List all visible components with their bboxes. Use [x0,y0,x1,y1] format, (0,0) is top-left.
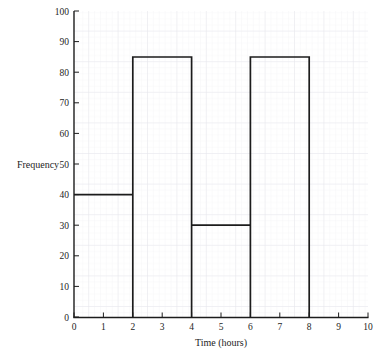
y-tick-label: 80 [60,68,70,78]
histogram-chart: 100 90 80 70 60 50 40 30 20 10 0 0 1 2 3… [0,0,378,351]
x-tick-label: 7 [277,322,282,332]
y-tick-label: 0 [64,313,69,323]
y-tick-label: 10 [60,282,70,292]
x-tick-label: 4 [189,322,194,332]
x-tick-label: 8 [307,322,312,332]
x-tick-label: 3 [160,322,165,332]
y-tick-label: 100 [55,7,70,17]
x-axis-title: Time (hours) [195,337,247,349]
plot-grid [74,11,368,317]
chart-canvas: 100 90 80 70 60 50 40 30 20 10 0 0 1 2 3… [0,0,378,351]
y-tick-label: 90 [60,37,70,47]
x-tick-labels: 0 1 2 3 4 5 6 7 8 9 10 [72,322,373,332]
x-tick-label: 6 [248,322,253,332]
y-axis-title: Frequency [17,159,59,170]
x-tick-label: 1 [101,322,106,332]
x-tick-label: 0 [72,322,77,332]
x-tick-label: 9 [336,322,341,332]
y-tick-label: 40 [60,190,70,200]
y-tick-label: 20 [60,251,70,261]
x-tick-label: 2 [130,322,135,332]
y-tick-label: 70 [60,98,70,108]
x-tick-label: 5 [219,322,224,332]
y-tick-label: 50 [60,160,70,170]
y-tick-label: 60 [60,129,70,139]
x-tick-label: 10 [363,322,373,332]
y-tick-label: 30 [60,221,70,231]
